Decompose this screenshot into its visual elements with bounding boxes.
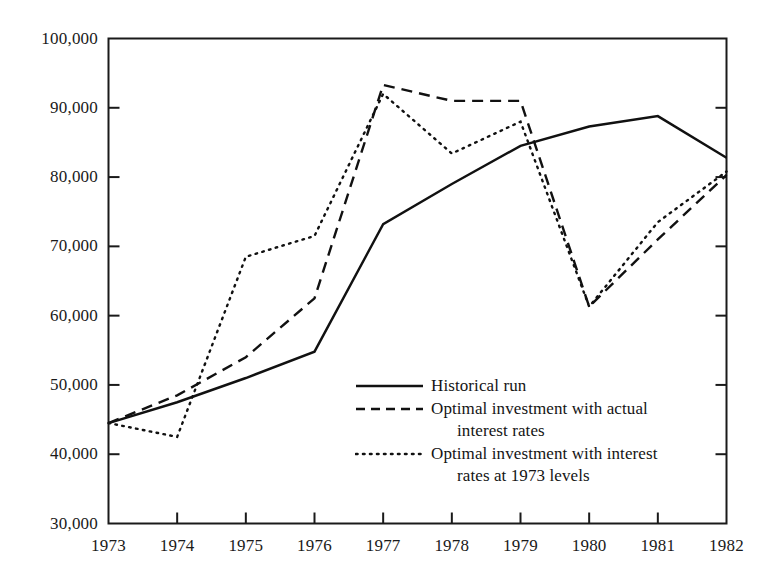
legend-label-optimal-actual-rates: Optimal investment with actual interest … [431, 398, 648, 442]
y-axis-tick-label: 50,000 [0, 375, 98, 395]
y-axis-tick-label: 40,000 [0, 444, 98, 464]
x-axis-tick-label: 1977 [366, 536, 401, 556]
y-axis-tick-label: 80,000 [0, 167, 98, 187]
x-axis-tick-label: 1979 [503, 536, 538, 556]
legend-item-optimal-actual-rates: Optimal investment with actual interest … [355, 398, 700, 442]
x-axis-ticks [177, 513, 658, 524]
legend-label-optimal-1973-rates: Optimal investment with interest rates a… [431, 443, 658, 487]
x-axis-tick-label: 1974 [160, 536, 195, 556]
x-axis-tick-label: 1981 [640, 536, 675, 556]
legend-item-historical-run: Historical run [355, 375, 700, 397]
y-axis-tick-label: 70,000 [0, 236, 98, 256]
legend-item-optimal-1973-rates: Optimal investment with interest rates a… [355, 443, 700, 487]
y-axis-tick-label: 90,000 [0, 98, 98, 118]
legend-label-historical-run: Historical run [431, 375, 526, 397]
y-axis-tick-label: 100,000 [0, 29, 98, 49]
x-axis-tick-label: 1982 [709, 536, 744, 556]
x-axis-tick-label: 1973 [91, 536, 126, 556]
chart-figure: 100,00090,00080,00070,00060,00050,00040,… [0, 0, 769, 576]
x-axis-tick-label: 1975 [228, 536, 263, 556]
legend-swatch-solid-icon [355, 375, 431, 397]
x-axis-tick-label: 1980 [572, 536, 607, 556]
line-chart-canvas [0, 0, 769, 576]
y-axis-tick-label: 60,000 [0, 306, 98, 326]
x-axis-tick-label: 1976 [297, 536, 332, 556]
legend-swatch-dotted-icon [355, 443, 431, 465]
legend-swatch-dashed-icon [355, 398, 431, 420]
x-axis-tick-label: 1978 [434, 536, 469, 556]
chart-legend: Historical run Optimal investment with a… [355, 375, 700, 488]
y-axis-tick-label: 30,000 [0, 514, 98, 534]
